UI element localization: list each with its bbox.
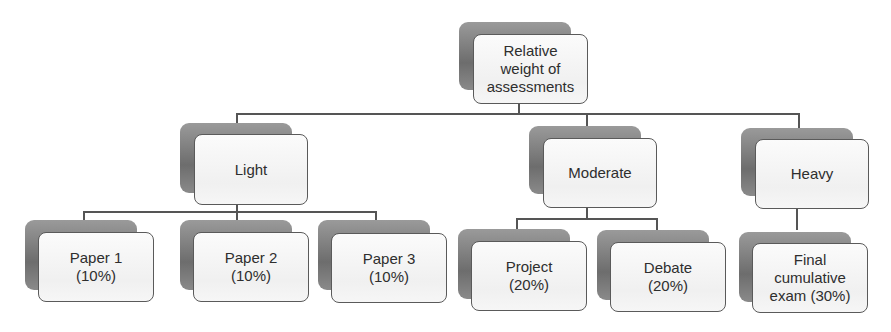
leaf-label: Paper 2 (10%) <box>225 249 278 285</box>
leaf-box: Final cumulative exam (30%) <box>752 243 868 313</box>
category-box: Moderate <box>543 138 657 208</box>
leaf-box: Paper 3 (10%) <box>331 233 447 303</box>
category-box: Heavy <box>755 139 869 209</box>
leaf-box: Project (20%) <box>471 241 587 311</box>
connector-debate-up <box>656 218 658 230</box>
connector-moderate-bar <box>516 218 657 220</box>
category-label: Moderate <box>568 164 631 182</box>
leaf-label: Project (20%) <box>506 258 553 294</box>
category-label: Light <box>235 161 268 179</box>
root-box: Relative weight of assessments <box>473 34 588 104</box>
leaf-label: Paper 3 (10%) <box>363 250 416 286</box>
leaf-box: Debate (20%) <box>610 242 726 312</box>
leaf-label: Paper 1 (10%) <box>70 249 123 285</box>
connector-light-bar <box>83 211 375 213</box>
category-label: Heavy <box>791 165 834 183</box>
root-label: Relative weight of assessments <box>487 42 575 96</box>
connector-level1-bar <box>236 113 799 115</box>
connector-heavy-down <box>796 208 798 230</box>
category-box: Light <box>194 134 308 205</box>
leaf-label: Final cumulative exam (30%) <box>770 251 851 305</box>
leaf-label: Debate (20%) <box>644 259 692 295</box>
leaf-box: Paper 1 (10%) <box>38 232 154 302</box>
leaf-box: Paper 2 (10%) <box>193 232 309 302</box>
